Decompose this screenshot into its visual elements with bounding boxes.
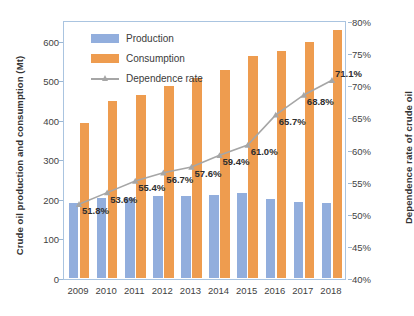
dependence-rate-polyline	[79, 80, 332, 204]
x-axis-tick-label: 2015	[236, 285, 257, 296]
dependence-rate-point-label: 71.1%	[335, 68, 362, 79]
y-left-tick-label: 100	[43, 234, 59, 245]
legend-item-production: Production	[91, 30, 203, 47]
y-axis-right-ticks: 40%45%50%55%60%65%70%75%80%	[352, 21, 392, 280]
y-right-tick-mark	[348, 279, 352, 280]
dependence-rate-point-label: 59.4%	[223, 156, 250, 167]
x-axis-tick-label: 2009	[67, 285, 88, 296]
x-axis-tick-label: 2010	[96, 285, 117, 296]
legend-swatch-production	[91, 34, 119, 43]
dependence-rate-point-label: 61.0%	[251, 146, 278, 157]
y-right-tick-mark	[348, 22, 352, 23]
y-right-tick-label: 80%	[352, 17, 371, 28]
y-right-tick-mark	[348, 151, 352, 152]
dependence-rate-point-label: 57.6%	[194, 168, 221, 179]
dependence-rate-point-label: 55.4%	[138, 182, 165, 193]
legend-item-dependence-rate: Dependence rate	[91, 70, 203, 87]
y-left-tick-label: 500	[43, 76, 59, 87]
y-axis-right-title: Dependence rate of crude oil	[403, 68, 414, 248]
legend-label-dependence-rate: Dependence rate	[126, 73, 203, 84]
y-right-tick-mark	[348, 215, 352, 216]
x-axis-tick-label: 2011	[124, 285, 144, 296]
legend-swatch-dependence-rate	[91, 74, 119, 83]
x-axis-tick-label: 2014	[208, 285, 229, 296]
x-axis-ticks: 2009201020112012201320142015201620172018	[63, 283, 346, 305]
dependence-rate-point-label: 68.8%	[307, 96, 334, 107]
y-right-tick-mark	[348, 247, 352, 248]
legend-item-consumption: Consumption	[91, 50, 203, 67]
x-axis-tick-label: 2017	[292, 285, 313, 296]
y-right-tick-mark	[348, 54, 352, 55]
y-right-tick-label: 60%	[352, 145, 371, 156]
y-right-tick-label: 65%	[352, 113, 371, 124]
y-right-tick-label: 55%	[352, 177, 371, 188]
y-left-tick-label: 200	[43, 194, 59, 205]
x-axis-tick-label: 2018	[320, 285, 341, 296]
y-right-tick-label: 45%	[352, 241, 371, 252]
legend-swatch-consumption	[91, 54, 119, 63]
y-left-tick-label: 400	[43, 115, 59, 126]
y-right-tick-label: 40%	[352, 274, 371, 285]
y-right-tick-label: 70%	[352, 81, 371, 92]
dependence-rate-point-label: 56.7%	[166, 174, 193, 185]
plot-area: 51.8%53.6%55.4%56.7%57.6%59.4%61.0%65.7%…	[63, 21, 346, 280]
legend-label-production: Production	[126, 33, 174, 44]
y-right-tick-mark	[348, 86, 352, 87]
y-axis-left-ticks: 0100200300400500600	[18, 21, 59, 280]
y-right-tick-label: 50%	[352, 209, 371, 220]
y-left-tick-label: 300	[43, 155, 59, 166]
dependence-rate-point-label: 53.6%	[110, 194, 137, 205]
x-axis-tick-label: 2013	[180, 285, 201, 296]
dependence-rate-point-label: 51.8%	[82, 205, 109, 216]
x-axis-tick-label: 2016	[264, 285, 285, 296]
dependence-rate-point-label: 65.7%	[279, 116, 306, 127]
chart-legend: Production Consumption Dependence rate	[91, 30, 203, 90]
y-right-tick-label: 75%	[352, 49, 371, 60]
y-right-tick-mark	[348, 183, 352, 184]
x-axis-tick-label: 2012	[152, 285, 173, 296]
legend-label-consumption: Consumption	[126, 53, 185, 64]
y-left-tick-label: 600	[43, 36, 59, 47]
y-right-tick-mark	[348, 118, 352, 119]
